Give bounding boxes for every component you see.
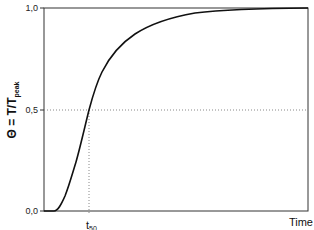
y-tick-label-0: 0,0 <box>25 206 38 216</box>
y-tick-label-05: 0,5 <box>25 105 38 115</box>
y-label-sub: peak <box>13 81 21 97</box>
x-tick-sub: 50 <box>89 225 97 230</box>
y-label-main: Θ = T/T <box>5 97 19 139</box>
y-axis-label: Θ = T/Tpeak <box>5 81 21 138</box>
y-tick-label-1: 1,0 <box>25 3 38 13</box>
chart: 1,0 0,5 0,0 t50 Time Θ = T/Tpeak <box>0 0 314 230</box>
x-axis-label: Time <box>289 216 313 228</box>
x-tick-t50: t50 <box>86 219 97 230</box>
